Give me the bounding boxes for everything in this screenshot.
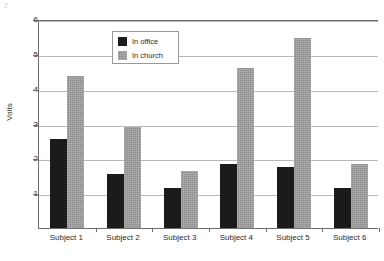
bar-in-office: [50, 139, 67, 228]
bar-chart: 2 Volts 123456 Subject 1Subject 2Subject…: [0, 0, 384, 261]
gridline: [39, 195, 378, 196]
legend-swatch-in-office: [118, 37, 127, 46]
bar-in-church: [181, 171, 198, 228]
x-tick-mark: [209, 228, 210, 232]
bar-in-church: [294, 38, 311, 228]
bar-in-office: [334, 188, 351, 228]
x-tick-label: Subject 6: [321, 234, 378, 242]
gridline: [39, 160, 378, 161]
x-tick-label: Subject 5: [265, 234, 322, 242]
x-tick-label: Subject 1: [38, 234, 95, 242]
x-tick-mark: [266, 228, 267, 232]
gridline: [39, 56, 378, 57]
bar-in-church: [351, 164, 368, 228]
gridline: [39, 21, 378, 22]
gridline: [39, 126, 378, 127]
chart-legend: In office In church: [112, 31, 179, 64]
x-tick-label: Subject 3: [151, 234, 208, 242]
bar-in-office: [164, 188, 181, 228]
x-tick-mark: [379, 228, 380, 232]
x-tick-label: Subject 4: [208, 234, 265, 242]
x-tick-mark: [322, 228, 323, 232]
bar-in-church: [124, 127, 141, 228]
legend-label-in-office: In office: [132, 38, 158, 46]
bar-in-office: [277, 167, 294, 228]
legend-swatch-in-church: [118, 51, 127, 60]
legend-label-in-church: In church: [132, 52, 163, 60]
bar-in-church: [67, 76, 84, 228]
y-axis-ticks: 123456: [0, 0, 38, 261]
legend-item-in-church: In church: [118, 50, 163, 61]
bar-in-office: [220, 164, 237, 228]
bar-in-office: [107, 174, 124, 228]
x-tick-mark: [96, 228, 97, 232]
gridline: [39, 91, 378, 92]
legend-item-in-office: In office: [118, 36, 158, 47]
x-tick-mark: [152, 228, 153, 232]
x-tick-label: Subject 2: [95, 234, 152, 242]
plot-area: [38, 20, 378, 229]
bar-in-church: [237, 68, 254, 228]
